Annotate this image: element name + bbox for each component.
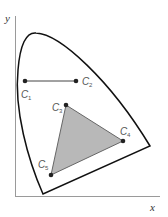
svg-text:4: 4 [127,132,131,138]
point-c3 [64,103,69,108]
y-axis-label: y [4,12,10,24]
chromaticity-diagram: y x C 1 C 2 C 3 C 4 C 5 [0,0,168,217]
svg-text:2: 2 [89,82,93,88]
point-c4 [121,139,126,144]
svg-text:5: 5 [45,165,49,171]
point-c5 [49,173,54,178]
x-axis-label: x [149,201,155,213]
gamut-triangle [51,105,123,175]
label-c5: C 5 [38,159,49,171]
label-c2: C 2 [82,76,93,88]
svg-text:1: 1 [28,95,32,101]
label-c4: C 4 [120,126,131,138]
svg-text:3: 3 [59,108,63,114]
label-c3: C 3 [52,102,63,114]
point-c1 [23,79,28,84]
point-c2 [74,79,79,84]
label-c1: C 1 [21,89,32,101]
